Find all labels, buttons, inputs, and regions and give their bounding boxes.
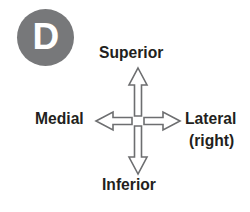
- label-lateral: Lateral: [185, 109, 236, 128]
- label-lateral-side: (right): [189, 131, 234, 150]
- anatomical-orientation-figure: D Superior Medial Lateral (right) Inferi…: [0, 0, 250, 212]
- medial-arrow: [96, 112, 132, 130]
- arrow-cross-svg: [92, 64, 184, 178]
- label-medial: Medial: [35, 109, 84, 128]
- panel-label-letter: D: [32, 18, 58, 55]
- direction-arrow-cross: [92, 64, 184, 178]
- panel-label-badge: D: [17, 9, 74, 66]
- arrow-cross-center: [135, 118, 142, 125]
- superior-arrow: [129, 68, 147, 116]
- label-superior: Superior: [99, 43, 163, 62]
- lateral-arrow: [144, 112, 180, 130]
- inferior-arrow: [129, 126, 147, 174]
